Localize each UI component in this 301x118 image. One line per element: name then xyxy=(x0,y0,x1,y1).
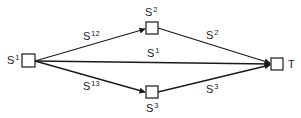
node-label-t: T xyxy=(288,59,295,70)
node-s2-box xyxy=(146,22,158,34)
node-label-s2: S2 xyxy=(145,7,158,19)
node-t-box xyxy=(271,58,283,70)
node-s3-box xyxy=(146,86,158,98)
flow-network-diagram: S1 S2 S3 T S12 S1 S13 S2 S3 xyxy=(0,0,301,118)
node-label-s1: S1 xyxy=(7,55,20,67)
node-label-s3: S3 xyxy=(146,103,159,115)
edge-label-s1: S1 xyxy=(147,48,160,60)
edge-label-s13: S13 xyxy=(83,81,100,93)
edge-label-s12: S12 xyxy=(83,31,100,43)
edge-label-s3: S3 xyxy=(206,84,219,96)
node-s1-box xyxy=(22,54,35,67)
edge-label-s2: S2 xyxy=(206,30,219,42)
edge-s1-to-t xyxy=(35,61,270,64)
